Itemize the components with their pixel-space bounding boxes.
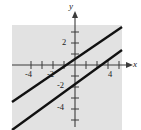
x-tick-label-neg2: -2: [47, 70, 54, 79]
x-tick-label-neg4: -4: [25, 70, 32, 79]
y-tick-label-neg2: -2: [57, 81, 64, 90]
plot-canvas: [0, 0, 141, 130]
y-tick-label-neg4: -4: [57, 103, 64, 112]
x-axis-label: x: [133, 60, 137, 69]
y-tick-label-2: 2: [62, 38, 66, 47]
x-tick-label-4: 4: [108, 70, 112, 79]
y-axis-label: y: [69, 2, 73, 11]
graph-figure: y x -4 -2 4 2 -2 -4: [0, 0, 141, 130]
